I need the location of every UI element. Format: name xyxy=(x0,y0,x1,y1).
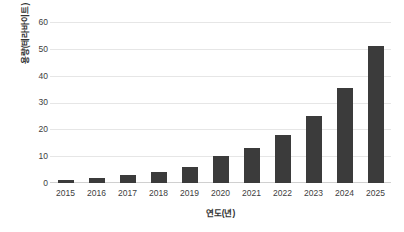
bar[interactable] xyxy=(213,156,229,183)
bars-layer xyxy=(50,22,391,183)
x-axis-tick-label: 2021 xyxy=(236,188,267,198)
bar[interactable] xyxy=(151,172,167,183)
bar-slot xyxy=(205,22,236,183)
bar[interactable] xyxy=(89,178,105,183)
bar-slot xyxy=(174,22,205,183)
bar-chart: 용량(테라바이트) 0 10 20 30 40 50 60 2015201620… xyxy=(0,0,404,232)
bar[interactable] xyxy=(368,46,384,183)
bar-slot xyxy=(267,22,298,183)
bar[interactable] xyxy=(58,180,74,183)
bar[interactable] xyxy=(120,175,136,183)
bar[interactable] xyxy=(182,167,198,183)
bar-slot xyxy=(143,22,174,183)
bar[interactable] xyxy=(244,148,260,183)
x-axis-tick-label: 2024 xyxy=(329,188,360,198)
bar[interactable] xyxy=(337,88,353,183)
bar[interactable] xyxy=(306,116,322,183)
bar-slot xyxy=(360,22,391,183)
y-axis-tick-label: 40 xyxy=(8,71,48,81)
x-axis-tick-label: 2023 xyxy=(298,188,329,198)
y-axis-tick-label: 50 xyxy=(8,44,48,54)
x-axis-tick-label: 2015 xyxy=(50,188,81,198)
y-axis-tick-label: 60 xyxy=(8,17,48,27)
x-axis-tick-label: 2016 xyxy=(81,188,112,198)
bar-slot xyxy=(112,22,143,183)
x-axis-tick-label: 2017 xyxy=(112,188,143,198)
x-axis-tick-labels: 2015201620172018201920202021202220232024… xyxy=(50,188,391,198)
x-axis-tick-label: 2022 xyxy=(267,188,298,198)
y-axis-tick-label: 10 xyxy=(8,151,48,161)
bar-slot xyxy=(81,22,112,183)
x-axis-tick-label: 2019 xyxy=(174,188,205,198)
y-axis-tick-label: 30 xyxy=(8,97,48,107)
bar-slot xyxy=(236,22,267,183)
bar-slot xyxy=(298,22,329,183)
x-axis-tick-label: 2018 xyxy=(143,188,174,198)
bar[interactable] xyxy=(275,135,291,183)
y-axis-tick-label: 0 xyxy=(8,178,48,188)
x-axis-title: 연도(년) xyxy=(50,206,391,218)
x-axis-tick-label: 2025 xyxy=(360,188,391,198)
x-axis-tick-label: 2020 xyxy=(205,188,236,198)
plot-area xyxy=(50,22,391,183)
bar-slot xyxy=(329,22,360,183)
y-axis-tick-label: 20 xyxy=(8,124,48,134)
bar-slot xyxy=(50,22,81,183)
